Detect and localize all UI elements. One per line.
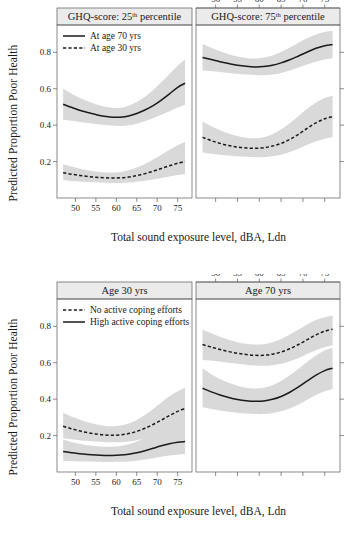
top-x-tick-label-50: 50	[211, 0, 221, 4]
y-tick-label-bottom-left-0.2: 0.2	[40, 431, 51, 441]
y-axis-label-bottom: Predicted Proportion Poor Health	[0, 292, 26, 502]
x-tick-label-bottom-left-60: 60	[112, 477, 122, 487]
confidence-band-top-left-0	[63, 60, 185, 126]
legend-label-top-left-0: At age 70 yrs	[90, 31, 141, 41]
x-tick-label-bottom-left-50: 50	[71, 477, 81, 487]
panel-bottom-right: Age 70 yrs	[196, 282, 344, 476]
confidence-band-top-right-0	[203, 31, 333, 75]
x-tick-label-top-left-70: 70	[153, 203, 163, 213]
strip-title-bottom-right: Age 70 yrs	[245, 285, 291, 296]
top-x-tick-label-75: 75	[320, 0, 330, 4]
top-x-tick-label-60: 60	[255, 0, 265, 4]
panel-bottom-left: Age 30 yrs5055606570750.20.40.60.8No act…	[40, 282, 192, 487]
y-tick-label-top-left-0.4: 0.4	[40, 120, 52, 130]
y-tick-label-bottom-left-0.4: 0.4	[40, 394, 52, 404]
x-tick-label-top-left-75: 75	[173, 203, 183, 213]
x-axis-label: Total sound exposure level, dBA, Ldn	[111, 231, 286, 244]
panel-top-left: GHQ-score: 25th percentile5055606570750.…	[40, 8, 192, 213]
top-x-tick-label-55: 55	[233, 0, 243, 4]
x-tick-label-top-left-50: 50	[71, 203, 81, 213]
x-tick-label-bottom-left-75: 75	[173, 477, 183, 487]
legend-label-bottom-left-1: High active coping efforts	[90, 317, 190, 327]
x-tick-label-top-left-55: 55	[91, 203, 101, 213]
top-x-tick-label-60: 60	[255, 274, 265, 278]
strip-title-top-left: GHQ-score: 25th percentile	[68, 11, 182, 22]
top-axis-top-right: 505560657075	[196, 0, 340, 8]
top-x-tick-label-70: 70	[298, 0, 308, 4]
panel-block-top: Predicted Proportion Poor Health GHQ-sco…	[0, 0, 350, 274]
top-x-tick-label-75: 75	[320, 274, 330, 278]
y-axis-label-top: Predicted Proportion Poor Health	[0, 18, 26, 228]
panel-top-right: GHQ-score: 75th percentile	[196, 8, 344, 202]
panel-block-bottom: Predicted Proportion Poor Health Age 30 …	[0, 274, 350, 548]
y-tick-label-top-left-0.8: 0.8	[40, 47, 52, 57]
top-x-tick-label-65: 65	[277, 0, 287, 4]
x-axis-label: Total sound exposure level, dBA, Ldn	[111, 505, 286, 518]
confidence-band-top-right-1	[203, 96, 333, 158]
x-tick-label-bottom-left-55: 55	[91, 477, 101, 487]
x-tick-label-top-left-60: 60	[112, 203, 122, 213]
y-tick-label-top-left-0.6: 0.6	[40, 84, 52, 94]
y-tick-label-bottom-left-0.8: 0.8	[40, 321, 52, 331]
chart-top: GHQ-score: 25th percentile5055606570750.…	[0, 0, 350, 274]
top-axis-bottom-right: 505560657075	[196, 274, 340, 282]
x-tick-label-bottom-left-70: 70	[153, 477, 163, 487]
top-x-tick-label-50: 50	[211, 274, 221, 278]
y-tick-label-bottom-left-0.6: 0.6	[40, 358, 52, 368]
top-x-tick-label-65: 65	[277, 274, 287, 278]
legend-label-bottom-left-0: No active coping efforts	[90, 305, 182, 315]
y-tick-label-top-left-0.2: 0.2	[40, 157, 51, 167]
strip-title-top-right: GHQ-score: 75th percentile	[211, 11, 325, 22]
x-tick-label-bottom-left-65: 65	[132, 477, 142, 487]
strip-title-bottom-left: Age 30 yrs	[101, 285, 147, 296]
legend-label-top-left-1: At age 30 yrs	[90, 43, 141, 53]
x-tick-label-top-left-65: 65	[132, 203, 142, 213]
figure-root: Predicted Proportion Poor Health GHQ-sco…	[0, 0, 350, 549]
top-x-tick-label-70: 70	[298, 274, 308, 278]
chart-bottom: Age 30 yrs5055606570750.20.40.60.8No act…	[0, 274, 350, 548]
top-x-tick-label-55: 55	[233, 274, 243, 278]
